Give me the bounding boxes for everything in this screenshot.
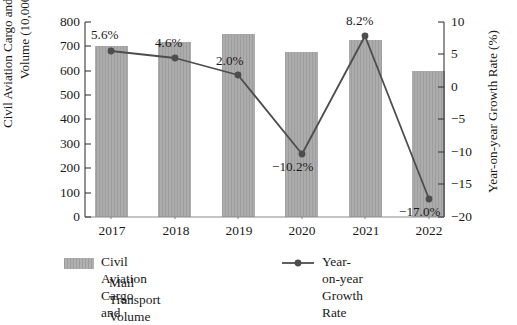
marker-2020 <box>299 151 306 158</box>
legend-line-marker-icon <box>280 252 320 272</box>
bar-2017 <box>95 46 128 217</box>
data-label-2019: 2.0% <box>216 54 243 67</box>
legend-bar-swatch <box>64 258 94 269</box>
data-label-2017: 5.6% <box>91 28 118 41</box>
legend-bar-label-line2: Mail Transport Volume <box>109 274 161 325</box>
left-tick-marks <box>85 22 91 217</box>
chart-legend: Civil Aviation Cargo and Mail Transport … <box>0 252 517 300</box>
bar-series <box>95 34 445 217</box>
marker-2018 <box>172 55 179 62</box>
data-label-2020: −10.2% <box>272 160 314 173</box>
marker-2019 <box>235 72 242 79</box>
bar-2022 <box>412 71 445 217</box>
marker-2017 <box>108 48 115 55</box>
growth-rate-markers <box>108 33 433 203</box>
legend-line-label: Year-on-year Growth Rate <box>322 253 363 321</box>
data-label-2018: 4.6% <box>155 36 182 49</box>
data-label-2021: 8.2% <box>346 14 373 27</box>
marker-2022 <box>426 196 433 203</box>
marker-2021 <box>362 33 369 40</box>
data-label-2022: −17.0% <box>399 205 441 218</box>
bar-2018 <box>158 42 191 217</box>
